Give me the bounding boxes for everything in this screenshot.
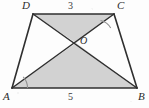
vertex-label-d: D bbox=[22, 0, 30, 11]
shaded-triangle-doc bbox=[33, 14, 114, 43]
trapezoid-svg bbox=[0, 0, 149, 108]
shaded-triangle-aob bbox=[12, 43, 137, 88]
geometry-figure: D C A B O 3 5 bbox=[0, 0, 149, 108]
vertex-label-c: C bbox=[117, 0, 124, 11]
side-length-dc: 3 bbox=[68, 1, 73, 11]
side-length-ab: 5 bbox=[68, 92, 73, 102]
vertex-label-a: A bbox=[3, 91, 10, 102]
vertex-label-o: O bbox=[80, 36, 87, 46]
vertex-label-b: B bbox=[138, 91, 145, 102]
